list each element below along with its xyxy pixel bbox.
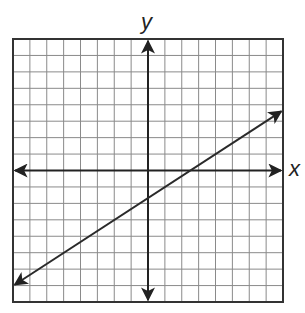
x-axis-label: x: [289, 158, 300, 180]
y-axis-label: y: [141, 11, 152, 33]
coordinate-plane: [0, 0, 305, 313]
